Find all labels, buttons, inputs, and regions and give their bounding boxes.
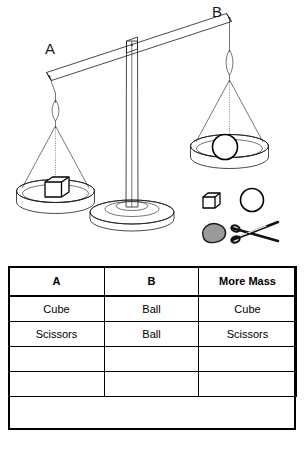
table-cell[interactable]: Scissors	[199, 322, 297, 347]
right-pan-ball	[213, 135, 238, 160]
left-arm-label: A	[45, 41, 55, 56]
table-row	[9, 372, 297, 397]
table-row: Cube Ball Cube	[9, 296, 297, 322]
more-mass-comparison-table: A B More Mass Cube Ball Cube Scissors Ba…	[8, 266, 297, 397]
table-cell-empty[interactable]	[9, 347, 105, 372]
loose-cube-icon	[203, 193, 220, 208]
balance-beam	[47, 14, 232, 81]
table-cell-empty[interactable]	[105, 372, 199, 397]
scissors-icon	[231, 222, 278, 244]
table-row	[9, 347, 297, 372]
left-pan-cube	[45, 177, 69, 197]
table-cell-empty[interactable]	[199, 372, 297, 397]
column-header-b: B	[105, 267, 199, 297]
right-arm-label: B	[212, 4, 222, 19]
clay-blob-icon	[203, 224, 226, 243]
page-root: A B A B More Mass Cube Ball Cube Scissor…	[0, 0, 305, 450]
balance-scale-illustration	[0, 0, 305, 258]
column-header-a: A	[9, 267, 105, 297]
table-cell[interactable]: Scissors	[9, 322, 105, 347]
table-cell[interactable]: Ball	[105, 296, 199, 322]
scale-column	[126, 41, 138, 207]
column-header-more-mass: More Mass	[199, 267, 297, 297]
table-cell-empty[interactable]	[105, 347, 199, 372]
table-cell[interactable]: Ball	[105, 322, 199, 347]
right-pan-assembly	[191, 18, 269, 169]
left-pan-assembly	[17, 77, 95, 214]
table-cell-empty[interactable]	[9, 372, 105, 397]
loose-ball-icon	[241, 189, 264, 212]
table-cell-empty[interactable]	[199, 347, 297, 372]
table-cell[interactable]: Cube	[9, 296, 105, 322]
left-pivot-point	[49, 76, 51, 78]
loose-objects-group	[203, 189, 278, 244]
table-header-row: A B More Mass	[9, 267, 297, 297]
table-cell[interactable]: Cube	[199, 296, 297, 322]
table-row: Scissors Ball Scissors	[9, 322, 297, 347]
